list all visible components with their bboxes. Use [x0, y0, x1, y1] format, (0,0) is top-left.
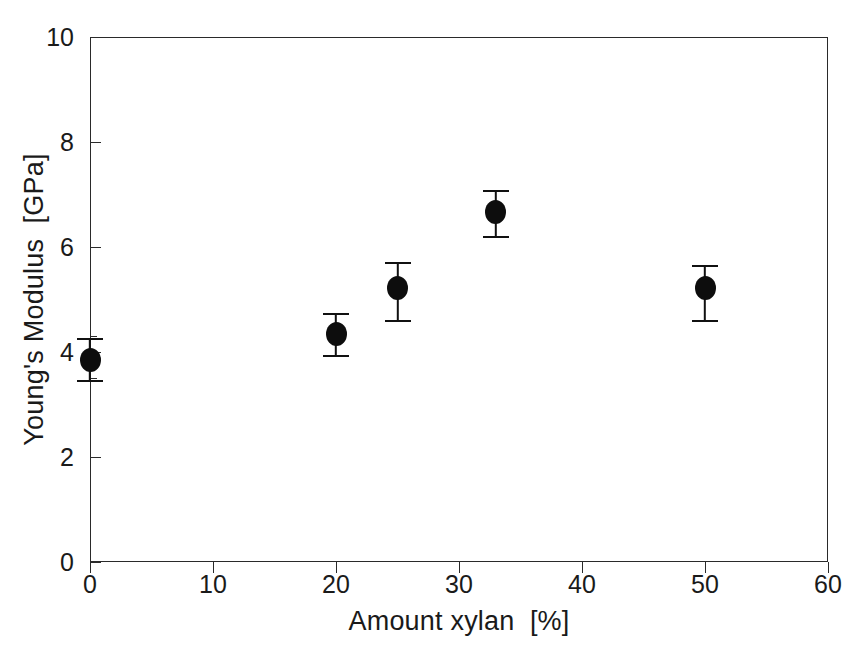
chart-figure: 02468100102030405060 Young's Modulus [GP…: [0, 0, 867, 667]
x-axis-tick-label: 50: [675, 570, 735, 599]
y-axis-tick: [90, 352, 101, 353]
x-axis-tick-label: 40: [552, 570, 612, 599]
y-axis-tick: [90, 562, 101, 563]
y-axis-minor-tick: [90, 336, 97, 337]
x-axis-title: Amount xylan [%]: [90, 606, 828, 637]
y-axis-tick: [90, 37, 101, 38]
y-axis-title: Young's Modulus [GPa]: [14, 37, 54, 562]
y-axis-minor-tick: [90, 378, 97, 379]
x-axis-tick-label: 20: [306, 570, 366, 599]
y-axis-tick: [90, 142, 101, 143]
y-axis-tick: [90, 457, 101, 458]
x-axis-tick-label: 30: [429, 570, 489, 599]
y-axis-tick: [90, 247, 101, 248]
plot-area: [90, 37, 828, 562]
x-axis-tick-label: 60: [798, 570, 858, 599]
x-axis-tick-label: 0: [60, 570, 120, 599]
x-axis-tick-label: 10: [183, 570, 243, 599]
